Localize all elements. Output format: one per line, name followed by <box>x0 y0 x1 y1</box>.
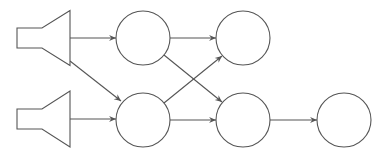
nodes-layer <box>116 11 371 147</box>
edge-node-3-to-node-2 <box>164 56 222 103</box>
node-4-circle <box>216 93 270 147</box>
speaker-1-speaker-icon <box>17 11 70 66</box>
speaker-outline <box>17 91 70 147</box>
network-diagram <box>0 0 385 156</box>
node-3-circle <box>116 93 170 147</box>
edges-layer <box>70 38 317 120</box>
node-5-circle <box>317 93 371 147</box>
inputs-layer <box>17 11 70 148</box>
node-1-circle <box>116 11 170 65</box>
edge-speaker-1-to-node-3 <box>70 61 121 101</box>
speaker-outline <box>17 11 70 66</box>
edge-node-1-to-node-4 <box>164 55 222 102</box>
speaker-2-speaker-icon <box>17 91 70 147</box>
node-2-circle <box>216 11 270 65</box>
